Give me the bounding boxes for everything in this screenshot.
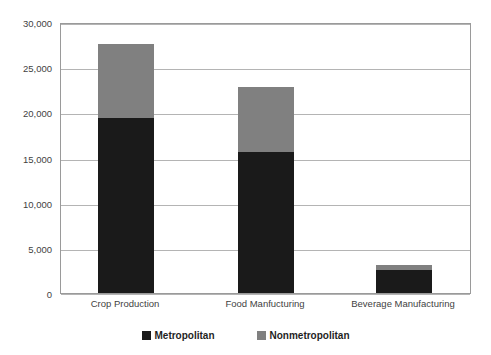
gridline <box>61 24 470 25</box>
y-axis-tick-label: 10,000 <box>23 198 52 209</box>
legend-swatch-nonmetropolitan-icon <box>257 331 266 340</box>
y-axis-tick-label: 30,000 <box>23 18 52 29</box>
y-axis-tick-label: 0 <box>47 289 52 300</box>
chart-legend: Metropolitan Nonmetropolitan <box>0 330 491 341</box>
bar-segment-metropolitan[interactable] <box>98 118 154 293</box>
x-axis-tick-label-food-manufacturing: Food Manfucturing <box>225 298 304 309</box>
y-axis-tick-label: 25,000 <box>23 63 52 74</box>
y-axis-tick-label: 15,000 <box>23 153 52 164</box>
bar-crop-production[interactable] <box>98 44 154 293</box>
bar-food-manufacturing[interactable] <box>238 87 294 293</box>
legend-item-metropolitan[interactable]: Metropolitan <box>142 330 215 341</box>
legend-label-metropolitan: Metropolitan <box>155 330 215 341</box>
bar-beverage-manufacturing[interactable] <box>376 265 432 293</box>
stacked-bar-chart: 30,000 25,000 20,000 15,000 10,000 5,000… <box>0 0 491 355</box>
bar-segment-metropolitan[interactable] <box>376 270 432 294</box>
legend-label-nonmetropolitan: Nonmetropolitan <box>270 330 350 341</box>
bar-segment-metropolitan[interactable] <box>238 152 294 293</box>
gridline <box>61 294 470 295</box>
x-axis: Crop Production Food Manfucturing Bevera… <box>60 298 471 316</box>
bar-segment-nonmetropolitan[interactable] <box>238 87 294 152</box>
y-axis-tick-label: 20,000 <box>23 108 52 119</box>
y-axis-tick-label: 5,000 <box>28 243 52 254</box>
legend-item-nonmetropolitan[interactable]: Nonmetropolitan <box>257 330 350 341</box>
bar-segment-nonmetropolitan[interactable] <box>98 44 154 118</box>
legend-swatch-metropolitan-icon <box>142 331 151 340</box>
x-axis-tick-label-beverage-manufacturing: Beverage Manufacturing <box>351 298 455 309</box>
y-axis: 30,000 25,000 20,000 15,000 10,000 5,000… <box>0 0 55 355</box>
x-axis-tick-label-crop-production: Crop Production <box>91 298 160 309</box>
plot-area <box>60 23 471 294</box>
